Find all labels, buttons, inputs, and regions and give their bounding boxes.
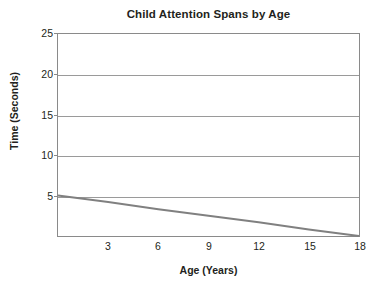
y-axis-title: Time (Seconds): [8, 51, 20, 171]
x-tick-label-12: 12: [239, 240, 279, 252]
series-line-attention-span: [58, 196, 359, 236]
x-tick-label-9: 9: [189, 240, 229, 252]
chart-figure: Child Attention Spans by Age Time (Secon…: [0, 0, 388, 291]
x-axis-tick-labels: 369121518: [57, 240, 360, 256]
x-tick-label-18: 18: [340, 240, 380, 252]
y-tick-label-20: 20: [27, 69, 53, 79]
chart-title: Child Attention Spans by Age: [57, 7, 360, 21]
series-line-layer: [58, 34, 359, 236]
y-tick-label-10: 10: [27, 150, 53, 160]
x-tick-label-6: 6: [138, 240, 178, 252]
x-tick-label-15: 15: [290, 240, 330, 252]
y-tick-label-25: 25: [27, 28, 53, 38]
x-tick-label-3: 3: [88, 240, 128, 252]
y-tick-label-15: 15: [27, 110, 53, 120]
y-axis-tick-labels: 510152025: [23, 33, 53, 237]
y-tick-label-5: 5: [27, 191, 53, 201]
plot-area: [57, 33, 360, 237]
x-axis-title: Age (Years): [57, 264, 360, 276]
